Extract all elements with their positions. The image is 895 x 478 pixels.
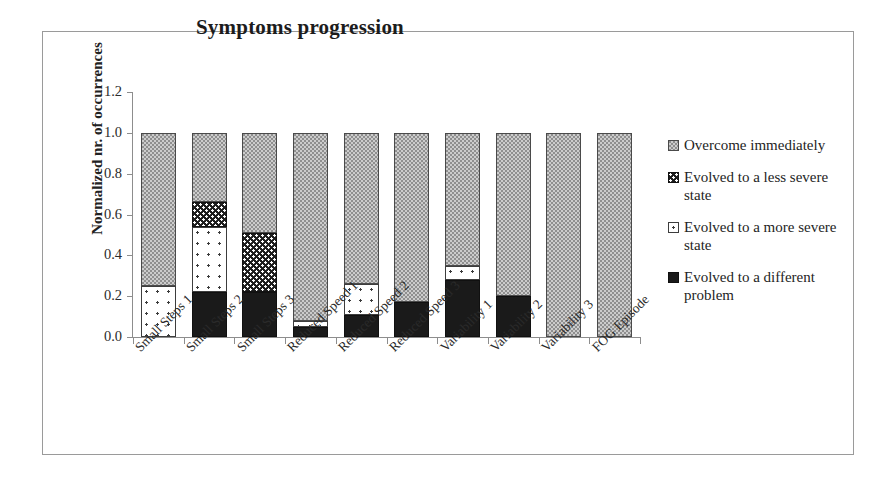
y-axis-tick-mark — [127, 296, 133, 297]
white-outline-swatch-icon — [668, 222, 679, 233]
gray-checker-swatch-icon — [668, 140, 679, 151]
bar-segment[interactable] — [445, 266, 480, 280]
y-axis-tick-label: 0.6 — [88, 206, 122, 223]
bar-column[interactable] — [293, 92, 328, 337]
x-axis-tick-mark — [184, 338, 185, 344]
y-axis-tick-mark — [127, 215, 133, 216]
bar-segment[interactable] — [242, 233, 277, 292]
bar-column[interactable] — [141, 92, 176, 337]
bar-column[interactable] — [496, 92, 531, 337]
x-axis-tick-mark — [488, 338, 489, 344]
chart-legend: Overcome immediatelyEvolved to a less se… — [668, 136, 848, 318]
bar-column[interactable] — [546, 92, 581, 337]
legend-item[interactable]: Overcome immediately — [668, 136, 848, 154]
y-axis-tick-mark — [127, 174, 133, 175]
y-axis-tick-label: 0.8 — [88, 165, 122, 182]
x-axis-tick-mark — [437, 338, 438, 344]
x-axis-tick-mark — [336, 338, 337, 344]
y-axis-tick-label: 0.4 — [88, 246, 122, 263]
x-axis-tick-mark — [589, 338, 590, 344]
x-axis-tick-mark — [234, 338, 235, 344]
x-axis-tick-mark — [387, 338, 388, 344]
bar-segment[interactable] — [192, 202, 227, 227]
bar-column[interactable] — [192, 92, 227, 337]
bar-segment[interactable] — [496, 133, 531, 296]
dark-dotted-swatch-icon — [668, 172, 679, 183]
x-axis-tick-mark — [640, 338, 641, 344]
solid-black-swatch-icon — [668, 272, 679, 283]
legend-item-label: Evolved to a more severe state — [684, 218, 848, 254]
legend-item[interactable]: Evolved to a less severe state — [668, 168, 848, 204]
bar-segment[interactable] — [344, 133, 379, 284]
x-axis-tick-mark — [539, 338, 540, 344]
y-axis-tick-label: 0.2 — [88, 287, 122, 304]
y-axis-tick-mark — [127, 92, 133, 93]
bar-segment[interactable] — [394, 133, 429, 302]
bar-segment[interactable] — [293, 133, 328, 321]
y-axis-tick-label: 1.0 — [88, 124, 122, 141]
bar-segment[interactable] — [242, 133, 277, 233]
y-axis-tick-label: 1.2 — [88, 83, 122, 100]
legend-item[interactable]: Evolved to a different problem — [668, 268, 848, 304]
legend-item-label: Overcome immediately — [684, 136, 825, 154]
x-axis-tick-mark — [133, 338, 134, 344]
y-axis-tick-mark — [127, 133, 133, 134]
legend-item[interactable]: Evolved to a more severe state — [668, 218, 848, 254]
legend-item-label: Evolved to a different problem — [684, 268, 848, 304]
legend-item-label: Evolved to a less severe state — [684, 168, 848, 204]
y-axis-tick-labels: 0.00.20.40.60.81.01.2 — [88, 0, 122, 478]
bar-segment[interactable] — [141, 133, 176, 286]
bar-segment[interactable] — [192, 227, 227, 292]
bar-segment[interactable] — [445, 133, 480, 266]
y-axis-tick-mark — [127, 255, 133, 256]
bar-column[interactable] — [242, 92, 277, 337]
x-axis-tick-mark — [285, 338, 286, 344]
bar-segment[interactable] — [192, 133, 227, 202]
bar-column[interactable] — [597, 92, 632, 337]
y-axis-tick-label: 0.0 — [88, 328, 122, 345]
